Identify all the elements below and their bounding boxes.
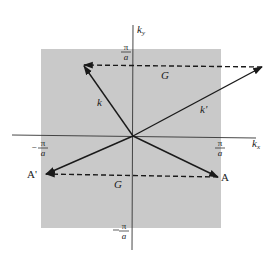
point-a-label: A: [221, 171, 229, 183]
svg-text:−: −: [31, 142, 36, 152]
svg-text:a: a: [41, 148, 46, 158]
svg-text:a: a: [124, 52, 129, 62]
brillouin-zone-diagram: ky kx π a π a − π a π a k k' G G A A': [0, 0, 280, 257]
kx-label: kx: [252, 137, 261, 151]
svg-text:π: π: [218, 138, 223, 148]
svg-text:a: a: [218, 148, 223, 158]
ky-label: ky: [137, 23, 146, 37]
svg-text:π: π: [124, 42, 129, 52]
svg-text:π: π: [41, 138, 46, 148]
svg-text:π: π: [122, 221, 127, 231]
g-label-top: G: [161, 69, 169, 81]
first-brillouin-zone: [41, 49, 221, 228]
point-a-prime-label: A': [27, 168, 37, 180]
k-prime-label: k': [200, 103, 208, 115]
g-label-bottom: G: [114, 178, 122, 190]
svg-text:a: a: [122, 231, 127, 241]
